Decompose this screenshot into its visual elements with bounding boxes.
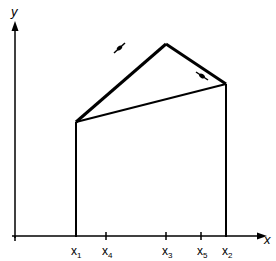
- edge-x3-to-x2-thick: [166, 44, 226, 84]
- tick-label-x5: x5: [197, 244, 208, 260]
- tick-label-x1: x1: [71, 244, 82, 260]
- y-axis-arrow-icon: [12, 21, 19, 31]
- diagram-canvas: y x x1 x4 x3 x5 x2: [0, 0, 276, 261]
- x-axis-label: x: [263, 232, 271, 247]
- tick-label-x4: x4: [102, 244, 113, 260]
- y-axis-label: y: [10, 4, 19, 19]
- tick-label-x2: x2: [222, 244, 233, 260]
- point-x5-marker-icon: [196, 72, 208, 80]
- point-x4-marker-icon: [114, 43, 125, 53]
- tick-label-x3: x3: [162, 244, 173, 260]
